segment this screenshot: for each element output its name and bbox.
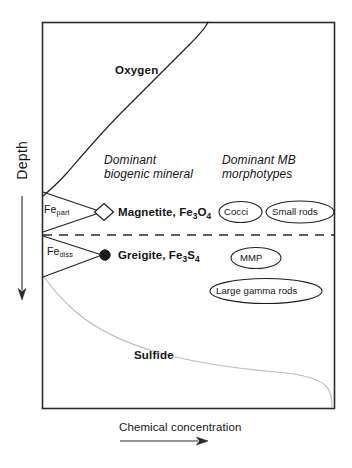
depth-profile-figure: Depth Oxygen Sulfide Dominant biogenic m…: [0, 0, 352, 468]
morphotype-label-large-gamma-rods: Large gamma rods: [216, 285, 297, 296]
fe-particulate-marker: [95, 204, 114, 221]
morphotype-label-small-rods: Small rods: [272, 206, 318, 217]
fe-dissolved-label: Fediss: [47, 245, 73, 258]
mineral-formula-greigite-sub1: 3: [182, 254, 187, 264]
mineral-name-magnetite: Magnetite: [118, 206, 173, 218]
morphotype-label-mmp: MMP: [240, 252, 263, 263]
oxygen-curve-label: Oxygen: [115, 64, 158, 78]
mineral-formula-greigite-s: S: [187, 249, 195, 261]
y-axis-label: Depth: [14, 130, 31, 190]
mineral-formula-magnetite-fe: Fe: [179, 206, 193, 218]
column-header-morphotypes-line2: morphotypes: [222, 167, 296, 181]
fe-particulate-label-sub: part: [56, 208, 69, 217]
sulfide-curve: [44, 277, 332, 407]
fe-dissolved-marker: [100, 250, 110, 260]
x-axis-label: Chemical concentration: [119, 421, 241, 435]
figure-canvas: [0, 0, 352, 468]
mineral-formula-magnetite-sub1: 3: [193, 211, 198, 221]
morphotype-label-cocci: Cocci: [224, 206, 248, 217]
column-header-morphotypes: Dominant MB morphotypes: [222, 153, 296, 181]
depth-axis-arrow: [18, 196, 26, 300]
mineral-formula-greigite-fe: Fe: [169, 249, 183, 261]
fe-particulate-label-main: Fe: [44, 203, 56, 215]
column-header-biogenic-mineral: Dominant biogenic mineral: [104, 153, 193, 181]
mineral-formula-magnetite-o: O: [198, 206, 207, 218]
mineral-separator-greigite: ,: [162, 249, 169, 261]
column-header-morphotypes-line1: Dominant MB: [222, 153, 296, 167]
mineral-label-magnetite: Magnetite, Fe3O4: [118, 206, 211, 220]
sulfide-curve-label: Sulfide: [134, 349, 174, 363]
column-header-biogenic-mineral-line2: biogenic mineral: [104, 167, 193, 181]
fe-dissolved-label-main: Fe: [47, 245, 59, 257]
fe-dissolved-label-sub: diss: [59, 250, 73, 259]
fe-particulate-label: Fepart: [44, 203, 70, 216]
mineral-name-greigite: Greigite: [118, 249, 162, 261]
column-header-biogenic-mineral-line1: Dominant: [104, 153, 193, 167]
mineral-label-greigite: Greigite, Fe3S4: [118, 249, 200, 263]
concentration-axis-arrow: [120, 437, 208, 445]
mineral-formula-greigite-sub2: 4: [195, 254, 200, 264]
mineral-formula-magnetite-sub2: 4: [207, 211, 212, 221]
